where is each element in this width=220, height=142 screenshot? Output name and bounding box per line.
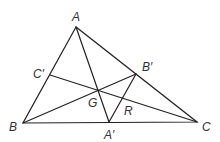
label-b: B [9, 120, 17, 134]
label-g: G [88, 96, 97, 110]
label-c: C [202, 120, 211, 134]
median-b [23, 74, 136, 123]
label-c-prime: C′ [33, 67, 45, 81]
label-a-prime: A′ [103, 128, 115, 142]
triangle-diagram: A B C A′ B′ C′ G R [0, 0, 220, 142]
label-a: A [71, 10, 80, 24]
label-r: R [124, 104, 133, 118]
triangle-abc [23, 27, 197, 123]
label-b-prime: B′ [142, 60, 153, 74]
